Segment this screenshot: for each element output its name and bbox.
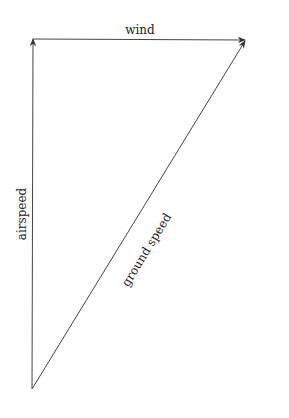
airspeed-label: airspeed: [15, 187, 29, 240]
ground-speed-label: ground speed: [119, 210, 175, 289]
vector-diagram: wind airspeed ground speed: [0, 0, 289, 418]
airspeed-vector: [32, 39, 33, 389]
ground-speed-vector: [32, 41, 245, 389]
wind-vector: [33, 39, 245, 40]
wind-label: wind: [125, 23, 155, 37]
